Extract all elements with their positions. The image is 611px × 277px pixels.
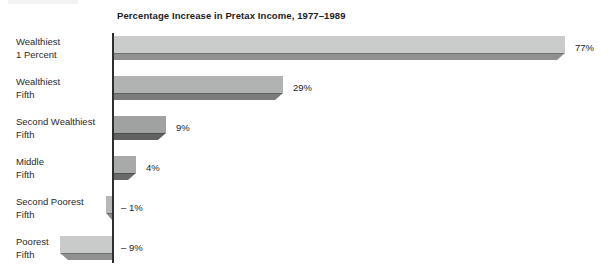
category-label: Wealthiest1 Percent (16, 35, 60, 61)
value-label: 4% (146, 159, 160, 176)
bar-band (113, 133, 166, 140)
chart-title: Percentage Increase in Pretax Income, 19… (117, 10, 346, 21)
category-label-line: Wealthiest (16, 35, 60, 48)
value-label: – 1% (121, 199, 143, 216)
bar-face (113, 36, 565, 53)
bar (60, 236, 113, 260)
bar (113, 116, 166, 140)
baseline-axis (112, 33, 114, 263)
category-label: Second PoorestFifth (16, 195, 84, 221)
value-label: 29% (293, 79, 312, 96)
bar-chart-figure: Percentage Increase in Pretax Income, 19… (0, 0, 611, 277)
value-label: 9% (176, 119, 190, 136)
category-label-line: Fifth (16, 88, 60, 101)
bar-face (113, 156, 136, 173)
cropped-artifact (8, 0, 78, 4)
category-label-line: Fifth (16, 248, 49, 261)
category-label-line: Fifth (16, 128, 95, 141)
category-label-line: 1 Percent (16, 48, 60, 61)
category-label: Second WealthiestFifth (16, 115, 95, 141)
bar-band (113, 53, 565, 60)
category-label-line: Middle (16, 155, 44, 168)
bar-band (113, 173, 136, 180)
category-label-line: Poorest (16, 235, 49, 248)
category-label: PoorestFifth (16, 235, 49, 261)
category-label: WealthiestFifth (16, 75, 60, 101)
category-label-line: Fifth (16, 208, 84, 221)
bar (113, 36, 565, 60)
bar-face (113, 116, 166, 133)
bar-face (113, 76, 283, 93)
value-label: 77% (575, 39, 594, 56)
value-label: – 9% (121, 239, 143, 256)
category-label-line: Fifth (16, 168, 44, 181)
bar-band (60, 253, 113, 260)
bar-band (113, 93, 283, 100)
category-label-line: Second Wealthiest (16, 115, 95, 128)
bar-face (60, 236, 113, 253)
bar (113, 76, 283, 100)
category-label: MiddleFifth (16, 155, 44, 181)
category-label-line: Wealthiest (16, 75, 60, 88)
bar (113, 156, 136, 180)
category-label-line: Second Poorest (16, 195, 84, 208)
